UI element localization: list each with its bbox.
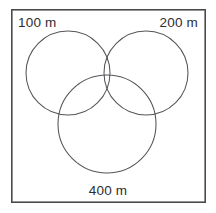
label-100m: 100 m xyxy=(18,16,57,30)
figure-root: 100 m 200 m 400 m xyxy=(0,0,216,213)
circle-100m xyxy=(26,31,110,115)
circle-200m xyxy=(104,31,188,115)
label-200m: 200 m xyxy=(159,16,198,30)
venn-diagram-svg xyxy=(0,0,216,213)
label-400m: 400 m xyxy=(89,184,128,198)
